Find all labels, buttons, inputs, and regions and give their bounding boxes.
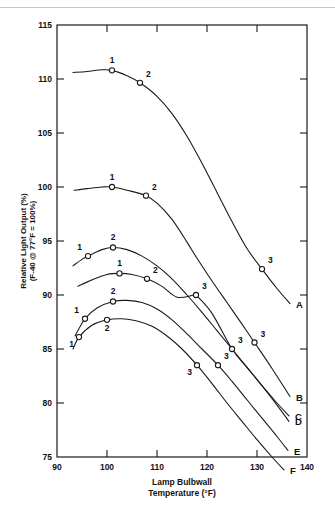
x-tick-label: 100 xyxy=(100,462,114,472)
data-point-label: 2 xyxy=(105,323,110,333)
plot-frame xyxy=(57,25,307,457)
data-point-label: 1 xyxy=(74,305,79,315)
y-axis-title-line1: Relative Light Output (%) xyxy=(19,193,28,289)
data-point-label: 2 xyxy=(111,286,116,296)
y-tick-label: 95 xyxy=(43,236,53,246)
data-point-label: 3 xyxy=(187,367,192,377)
data-point-marker xyxy=(76,335,81,340)
data-point-marker xyxy=(117,271,122,276)
x-tick-label: 120 xyxy=(200,462,214,472)
data-point-marker xyxy=(229,346,234,351)
data-point-label: 1 xyxy=(77,242,82,252)
x-tick-label: 140 xyxy=(300,462,314,472)
data-point-marker xyxy=(110,299,115,304)
x-axis-title-line1: Lamp Bulbwall xyxy=(152,477,212,487)
data-point-marker xyxy=(109,184,114,189)
data-point-label: 3 xyxy=(224,351,229,361)
y-tick-label: 85 xyxy=(43,344,53,354)
data-point-label: 3 xyxy=(268,255,273,265)
data-point-marker xyxy=(215,363,220,368)
x-tick-label: 90 xyxy=(52,462,62,472)
curve-end-label-e: E xyxy=(294,446,300,457)
y-tick-label: 105 xyxy=(38,128,52,138)
curve-end-label-f: F xyxy=(290,465,296,476)
y-tick-label: 110 xyxy=(38,74,52,84)
line-chart: 901001101201301407580859095100105110115 … xyxy=(0,0,335,529)
data-point-label: 3 xyxy=(261,329,266,339)
data-point-marker xyxy=(193,292,198,297)
y-tick-label: 115 xyxy=(38,20,52,30)
data-point-marker xyxy=(110,245,115,250)
y-axis-title-line2: (F-40 @ 77°F = 100%) xyxy=(28,200,37,281)
data-point-label: 2 xyxy=(146,69,151,79)
curve-end-label-d: D xyxy=(295,416,302,427)
data-point-label: 2 xyxy=(111,232,116,242)
x-tick-label: 130 xyxy=(250,462,264,472)
data-point-label: 3 xyxy=(202,281,207,291)
y-tick-label: 75 xyxy=(43,452,53,462)
data-point-marker xyxy=(85,254,90,259)
data-point-marker xyxy=(194,363,199,368)
curve-end-label-a: A xyxy=(296,299,303,310)
scan-artifact-line xyxy=(0,7,335,8)
labels-layer: A123B123C12D1233E123F123 xyxy=(69,55,303,476)
chart-figure: 901001101201301407580859095100105110115 … xyxy=(0,0,335,529)
data-point-label: 1 xyxy=(110,172,115,182)
curve-end-label-b: B xyxy=(296,392,303,403)
curves-layer xyxy=(73,70,290,470)
data-point-label: 2 xyxy=(152,182,157,192)
data-point-marker xyxy=(82,316,87,321)
data-point-marker xyxy=(143,193,148,198)
data-point-marker xyxy=(144,276,149,281)
y-tick-label: 90 xyxy=(43,290,53,300)
x-axis-title-line2: Temperature (°F) xyxy=(148,488,216,498)
data-point-marker xyxy=(137,80,142,85)
curve-b xyxy=(74,187,290,397)
data-point-label: 3 xyxy=(238,335,243,345)
data-point-marker xyxy=(252,340,257,345)
data-point-label: 1 xyxy=(69,339,74,349)
data-point-label: 1 xyxy=(110,55,115,65)
data-point-marker xyxy=(104,317,109,322)
y-tick-label: 100 xyxy=(38,182,52,192)
x-tick-label: 110 xyxy=(150,462,164,472)
data-point-marker xyxy=(259,266,264,271)
data-point-marker xyxy=(109,68,114,73)
y-tick-label: 80 xyxy=(43,398,53,408)
data-point-label: 2 xyxy=(153,265,158,275)
data-point-label: 1 xyxy=(117,258,122,268)
